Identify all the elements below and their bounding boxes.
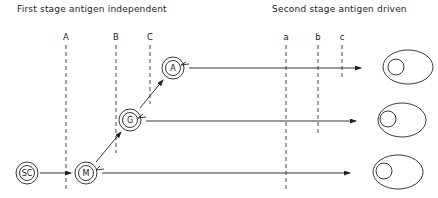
marker-label-A: A bbox=[63, 32, 69, 42]
target-cell-middle-body bbox=[378, 103, 426, 137]
first-stage-title: First stage antigen independent bbox=[17, 4, 167, 14]
target-cell-middle-nucleus bbox=[380, 111, 396, 127]
cell-m: M bbox=[75, 162, 97, 184]
cell-g-label: G bbox=[127, 116, 133, 125]
target-cell-top-nucleus bbox=[388, 59, 404, 75]
target-cell-bottom-nucleus bbox=[376, 163, 392, 179]
feedback-icon-m bbox=[96, 166, 104, 170]
marker-a: a bbox=[283, 32, 288, 190]
cell-sc: SC bbox=[16, 162, 38, 184]
marker-label-B: B bbox=[113, 32, 119, 42]
target-cell-top bbox=[383, 50, 433, 84]
arrow-m-to-g bbox=[96, 132, 121, 162]
marker-label-a: a bbox=[283, 32, 288, 42]
cell-a: A bbox=[162, 57, 184, 79]
arrow-g-to-a bbox=[140, 80, 163, 108]
cell-a-label: A bbox=[170, 64, 176, 73]
lymphocyte-differentiation-diagram: First stage antigen independent Second s… bbox=[0, 0, 438, 198]
second-stage-title: Second stage antigen driven bbox=[272, 4, 407, 14]
cell-sc-label: SC bbox=[22, 169, 33, 178]
target-cell-middle bbox=[378, 103, 426, 137]
marker-label-b: b bbox=[315, 32, 320, 42]
marker-c: c bbox=[340, 32, 345, 77]
target-cell-bottom-body bbox=[373, 155, 423, 189]
target-cell-top-body bbox=[383, 50, 433, 84]
marker-label-C: C bbox=[147, 32, 153, 42]
cell-m-label: M bbox=[83, 169, 90, 178]
cell-g: G bbox=[119, 109, 141, 131]
target-cell-bottom bbox=[373, 155, 423, 189]
marker-label-c: c bbox=[340, 32, 345, 42]
marker-A: A bbox=[63, 32, 69, 190]
marker-b: b bbox=[315, 32, 320, 135]
